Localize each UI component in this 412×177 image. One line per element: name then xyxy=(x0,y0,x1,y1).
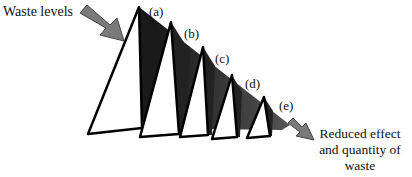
output-label-line-2: and quantity of xyxy=(308,142,412,158)
level-tag-c: (c) xyxy=(215,51,229,67)
level-tag-a: (a) xyxy=(149,4,163,20)
input-arrow-icon xyxy=(80,5,124,41)
level-tag-e: (e) xyxy=(279,98,293,114)
output-label-line-1: Reduced effect xyxy=(308,126,412,142)
output-label: Reduced effect and quantity of waste xyxy=(308,126,412,174)
level-tag-b: (b) xyxy=(184,26,199,42)
output-label-line-3: waste xyxy=(308,158,412,174)
input-label: Waste levels xyxy=(3,4,73,20)
level-tag-d: (d) xyxy=(245,76,260,92)
